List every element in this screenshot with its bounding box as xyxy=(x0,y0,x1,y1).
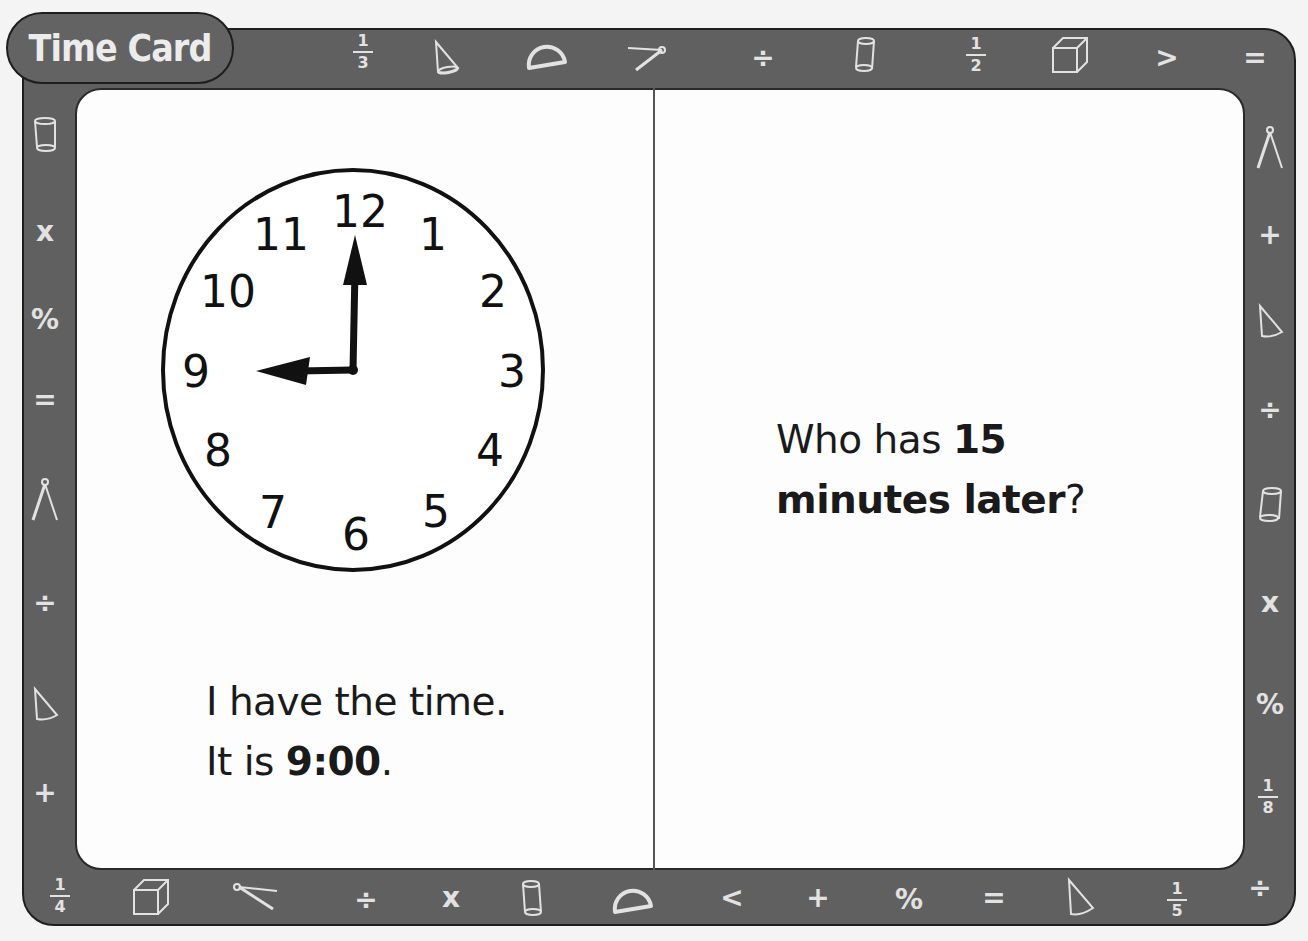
plus-symbol: + xyxy=(796,876,840,920)
equals-symbol: = xyxy=(972,876,1016,920)
cone-icon xyxy=(1061,876,1105,920)
equals-symbol: = xyxy=(23,378,67,422)
question-line-1: Who has 15 xyxy=(776,410,1085,470)
minutes-value: 15 xyxy=(953,417,1006,462)
fraction-one-half-icon: 12 xyxy=(954,33,998,77)
divide-symbol: ÷ xyxy=(1248,388,1292,432)
cone-icon xyxy=(23,683,67,727)
statement-line-2: It is 9:00. xyxy=(206,732,507,792)
compass-icon xyxy=(23,478,67,522)
divide-symbol: ÷ xyxy=(344,878,388,922)
clock-number-5: 5 xyxy=(422,486,450,537)
clock-number-8: 8 xyxy=(204,425,232,476)
fraction-one-fifth-icon: 15 xyxy=(1155,878,1199,922)
statement-line-1: I have the time. xyxy=(206,672,507,732)
clock-number-10: 10 xyxy=(200,266,256,317)
multiply-symbol: x xyxy=(1248,581,1292,625)
plus-symbol: + xyxy=(1248,213,1292,257)
cylinder-icon xyxy=(511,876,555,920)
cylinder-icon xyxy=(1248,483,1292,527)
divide-symbol: ÷ xyxy=(741,36,785,80)
cone-icon xyxy=(1248,300,1292,344)
divide-symbol: ÷ xyxy=(23,581,67,625)
compass-icon xyxy=(231,875,275,919)
percent-symbol: % xyxy=(23,298,67,342)
equals-symbol: = xyxy=(1233,36,1277,80)
cube-icon xyxy=(1047,34,1091,78)
question-line-2: minutes later? xyxy=(776,470,1085,530)
percent-symbol: % xyxy=(1248,683,1292,727)
cylinder-icon xyxy=(23,113,67,157)
current-time-value: 9:00 xyxy=(286,739,381,784)
clock-number-1: 1 xyxy=(419,209,447,260)
plus-symbol: + xyxy=(23,771,67,815)
compass-icon xyxy=(1248,126,1292,170)
compass-icon xyxy=(626,36,670,80)
question-prompt: Who has 15 minutes later? xyxy=(776,410,1085,530)
protractor-icon xyxy=(525,36,569,80)
clock-number-11: 11 xyxy=(253,209,309,260)
current-time-statement: I have the time. It is 9:00. xyxy=(206,672,507,792)
card-title-tab: Time Card xyxy=(6,12,234,84)
cylinder-icon xyxy=(842,33,886,77)
fraction-one-quarter-icon: 14 xyxy=(38,874,82,918)
clock-number-6: 6 xyxy=(342,509,370,560)
divide-symbol: ÷ xyxy=(1238,866,1282,910)
panel-divider xyxy=(653,88,655,870)
less-than-symbol: < xyxy=(710,876,754,920)
greater-than-symbol: > xyxy=(1145,36,1189,80)
clock-number-2: 2 xyxy=(479,266,507,317)
clock-number-9: 9 xyxy=(182,346,210,397)
clock-number-7: 7 xyxy=(259,487,287,538)
fraction-one-eighth-icon: 18 xyxy=(1246,775,1290,819)
clock-number-12: 12 xyxy=(332,186,388,237)
card-title: Time Card xyxy=(28,26,211,70)
protractor-icon xyxy=(611,876,655,920)
cube-icon xyxy=(130,876,174,920)
cone-icon xyxy=(426,36,470,80)
clock-number-4: 4 xyxy=(476,425,504,476)
clock-number-3: 3 xyxy=(498,346,526,397)
multiply-symbol: x xyxy=(429,876,473,920)
percent-symbol: % xyxy=(887,878,931,922)
analog-clock: 12 1 2 3 4 5 6 7 8 9 10 11 xyxy=(158,165,548,575)
multiply-symbol: x xyxy=(23,210,67,254)
fraction-one-third-icon: 13 xyxy=(341,30,385,74)
